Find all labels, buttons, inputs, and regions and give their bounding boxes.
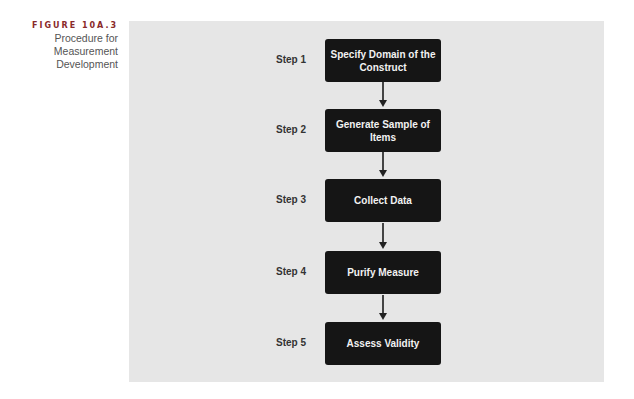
figure-title-line-1: Procedure for: [0, 32, 118, 45]
arrow-connector-2: [382, 152, 384, 172]
step-box-2: Generate Sample of Items: [325, 109, 441, 152]
figure-title-line-2: Measurement: [0, 45, 118, 58]
figure-caption: FIGURE 10A.3 Procedure for Measurement D…: [0, 20, 118, 71]
step-box-5: Assess Validity: [325, 322, 441, 365]
arrowhead-icon: [379, 242, 387, 249]
figure-title-line-3: Development: [0, 58, 118, 71]
arrow-connector-4: [382, 295, 384, 315]
figure-label: FIGURE 10A.3: [0, 20, 118, 32]
arrowhead-icon: [379, 100, 387, 107]
arrow-connector-1: [382, 82, 384, 102]
arrowhead-icon: [379, 170, 387, 177]
step-box-1: Specify Domain of the Construct: [325, 39, 441, 82]
arrowhead-icon: [379, 313, 387, 320]
step-box-3: Collect Data: [325, 179, 441, 222]
step-box-4: Purify Measure: [325, 251, 441, 294]
arrow-connector-3: [382, 223, 384, 244]
